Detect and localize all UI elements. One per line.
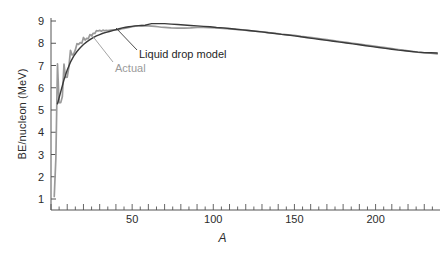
x-tick-label: 50 (126, 213, 138, 225)
series-path-actual (54, 26, 437, 197)
x-tick-label: 150 (285, 213, 303, 225)
leader-line-actual (91, 34, 113, 62)
x-axis-ticks (51, 204, 432, 210)
y-tick-label: 6 (28, 82, 44, 94)
x-tick-label: 200 (366, 213, 384, 225)
y-tick-label: 5 (28, 104, 44, 116)
y-tick-label: 9 (28, 15, 44, 27)
binding-energy-chart: BE/nucleon (MeV) A Liquid drop model Act… (0, 0, 445, 253)
x-tick-label: 100 (204, 213, 222, 225)
y-tick-label: 7 (28, 60, 44, 72)
series-path-liquid-drop-model (57, 24, 437, 104)
y-tick-label: 2 (28, 171, 44, 183)
y-tick-label: 8 (28, 37, 44, 49)
leader-line-liquid-drop-model (116, 28, 137, 50)
y-tick-label: 4 (28, 126, 44, 138)
y-tick-label: 3 (28, 149, 44, 161)
y-tick-label: 1 (28, 193, 44, 205)
